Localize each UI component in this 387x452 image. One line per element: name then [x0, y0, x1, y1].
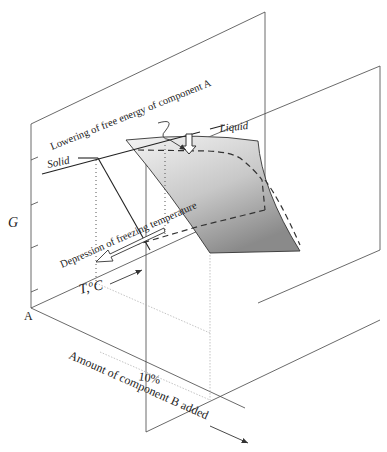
label-amount-axis: Amount of component B added — [67, 348, 211, 422]
label-g-axis: G — [8, 215, 18, 230]
label-origin-a: A — [24, 309, 33, 323]
free-energy-diagram: Lowering of free energy of component A S… — [0, 0, 387, 452]
label-depression: Depression of freezing temperature — [58, 199, 198, 270]
amount-axis-arrow — [210, 426, 248, 443]
label-liquid: Liquid — [218, 119, 249, 134]
temp-axis-arrow — [110, 270, 142, 284]
label-temp-axis: T,oC — [77, 276, 105, 297]
